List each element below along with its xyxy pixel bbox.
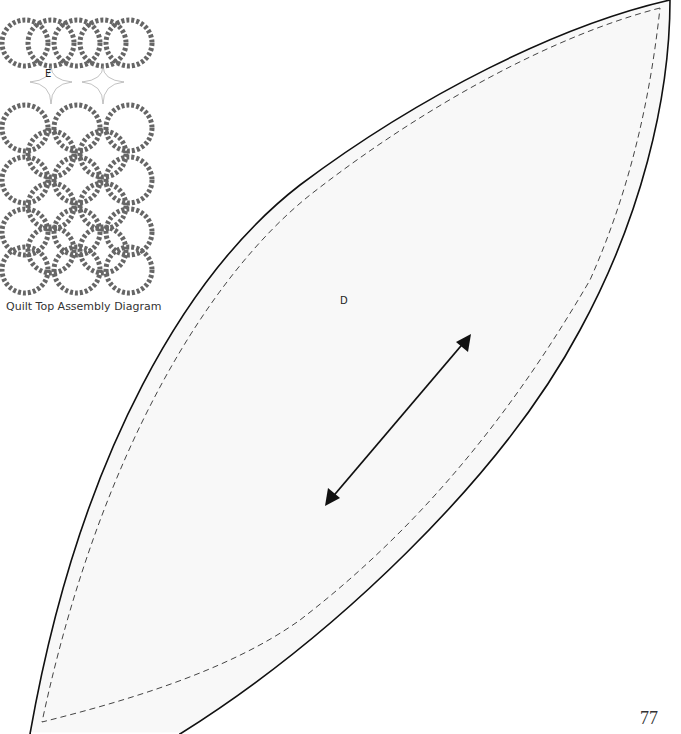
template-piece-d	[0, 0, 681, 734]
piece-label-e: E	[45, 68, 51, 79]
diagram-caption: Quilt Top Assembly Diagram	[6, 300, 161, 313]
quilt-assembly-diagram	[0, 0, 158, 296]
page-number: 77	[640, 708, 658, 729]
piece-label-d: D	[340, 295, 348, 306]
